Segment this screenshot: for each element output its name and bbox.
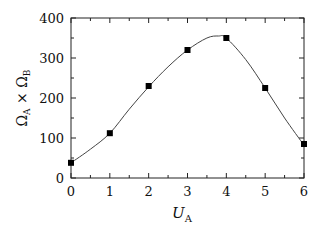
y-tick-label: 300 [39,51,64,66]
data-point-marker [146,83,152,89]
x-tick-label: 3 [183,184,191,199]
data-point-marker [107,130,113,136]
y-axis-label: ΩA × ΩB [14,69,32,126]
axes: 01234560100200300400 [39,11,308,199]
plot-series [68,35,307,166]
data-point-marker [262,85,268,91]
data-point-marker [223,35,229,41]
y-tick-label: 200 [39,91,64,106]
x-tick-label: 1 [106,184,114,199]
data-point-marker [68,160,74,166]
y-tick-label: 100 [39,131,64,146]
x-tick-label: 4 [222,184,230,199]
data-point-marker [185,47,191,53]
y-tick-label: 400 [39,11,64,26]
svg-text:ΩA × ΩB: ΩA × ΩB [14,69,32,126]
plot-frame [71,18,304,178]
x-tick-label: 0 [67,184,75,199]
x-tick-label: 6 [300,184,308,199]
y-tick-label: 0 [56,171,64,186]
x-tick-label: 2 [145,184,153,199]
data-point-marker [301,141,307,147]
chart: 01234560100200300400 UA ΩA × ΩB [0,0,316,237]
x-axis-label: UA [172,204,193,224]
x-tick-label: 5 [261,184,269,199]
fit-curve [71,36,304,163]
